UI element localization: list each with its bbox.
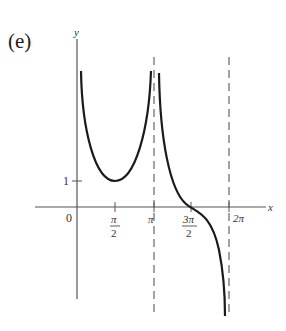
origin-label: 0 [66,211,72,225]
three-pi-over-2-numerator: 3π [182,213,195,225]
curve-branch-2 [159,73,225,316]
pi-label: π [148,213,154,225]
two-pi-label: 2π [233,212,245,224]
y-axis-label: y [73,26,79,38]
asymptotes [154,57,229,313]
pi-over-2-denominator: 2 [111,227,117,239]
curve-branch-1 [81,71,151,181]
x-axis-label: x [267,201,273,213]
y-one-label: 1 [63,174,69,188]
three-pi-over-2-denominator: 2 [186,227,192,239]
pi-over-2-numerator: π [111,213,117,225]
graph: y x 0 1 π 2 π 3π 2 2π [0,0,286,331]
